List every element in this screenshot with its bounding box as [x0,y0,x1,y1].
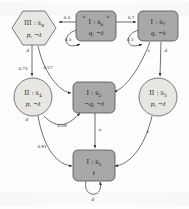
label-action-s4-down: d [26,117,29,122]
node-s8-props: p, ¬t [26,31,42,39]
label-s6-to-s7-prob: 0.7 [128,15,135,20]
node-s8-shape[interactable] [12,11,56,45]
node-s5-props: p, ¬t [150,100,166,108]
node-s6-props: q, ¬t [88,29,104,37]
label-s8-to-s2-prob: 0.27 [43,65,53,70]
label-s7-self-prob: 0.3 [127,37,134,42]
node-s7-shape[interactable] [138,11,178,41]
label-s4-to-s3-prob: 0.91 [37,144,47,149]
label-s6-to-s8-prob: 0.5 [64,15,71,20]
edge-s3-self-loop [86,181,101,194]
node-s4-props: p, ¬t [25,100,41,108]
label-action-s7-to-s5: d [165,48,168,53]
label-action-s2-to-s3: a [99,127,102,132]
diagram-canvas: III : s8 p, ¬t I : s6 q, ¬t I : s7 q, ¬t… [0,0,189,209]
label-action-s6-left: a [83,14,86,19]
node-s7-props: q, ¬t [150,29,166,37]
label-s4-to-s2-prob: 0.09 [57,123,67,128]
label-action-s3-self: d [92,197,95,202]
label-action-s6-right: a [107,14,110,19]
edge-s7-to-s5 [160,42,161,76]
node-s2-shape[interactable] [73,82,115,113]
node-s5-shape[interactable] [139,78,177,116]
node-s2-props: ¬q, ¬t [84,100,105,108]
label-action-s8-down: d [27,48,30,53]
label-action-s7-to-s2: c [148,48,151,53]
node-s4-shape[interactable] [14,78,52,116]
state-graph: III : s8 p, ¬t I : s6 q, ¬t I : s7 q, ¬t… [0,0,189,209]
label-action-s5-to-s3: c [147,129,150,134]
label-s6-self-prob: 0.5 [65,37,72,42]
edge-s5-to-s3 [115,116,152,166]
node-s8-title: III : s8 [24,19,44,28]
label-s8-to-s4-prob: 0.73 [18,66,28,71]
